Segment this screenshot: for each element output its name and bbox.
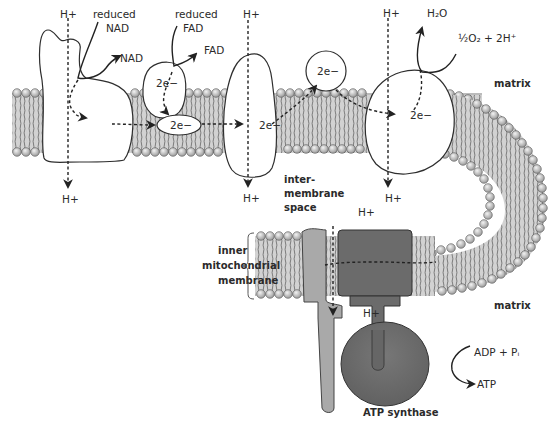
label-2e-carrier: 2e− bbox=[170, 119, 192, 131]
f1-head bbox=[341, 322, 429, 406]
label-atp: ATP bbox=[477, 378, 496, 390]
label-2e-fad: 2e− bbox=[156, 77, 178, 89]
label-intermembrane-1: inter- bbox=[284, 174, 315, 185]
label-matrix-bottom: matrix bbox=[494, 300, 531, 311]
label-reduced-nad-2: NAD bbox=[106, 22, 129, 34]
label-h-plus-2: H+ bbox=[243, 8, 260, 20]
label-inner-2: mitochondrial bbox=[202, 260, 280, 271]
complex-I bbox=[40, 30, 133, 162]
atp-arrow bbox=[452, 346, 474, 384]
label-h-plus-5: H+ bbox=[243, 192, 260, 204]
label-inner-1: inner bbox=[218, 245, 247, 256]
label-fad: FAD bbox=[204, 44, 224, 56]
label-2e-complex4: 2e− bbox=[410, 109, 432, 121]
label-h-plus-8: H+ bbox=[363, 307, 380, 319]
complex-IV bbox=[365, 70, 454, 174]
complex-II bbox=[143, 62, 186, 118]
label-h-plus-1: H+ bbox=[60, 8, 77, 20]
water-arrow bbox=[417, 28, 456, 72]
label-h-plus-4: H+ bbox=[62, 193, 79, 205]
label-matrix-top: matrix bbox=[494, 78, 531, 89]
complex-III bbox=[224, 54, 277, 177]
label-h-plus-6: H+ bbox=[385, 192, 402, 204]
label-reduced-nad-1: reduced bbox=[93, 8, 136, 20]
label-nad: NAD bbox=[120, 52, 143, 64]
label-reduced-fad-2: FAD bbox=[183, 22, 203, 34]
label-reduced-fad-1: reduced bbox=[175, 8, 218, 20]
etc-diagram: H+ reduced NAD NAD reduced FAD FAD H+ H+… bbox=[0, 0, 559, 422]
label-2e-complex3: 2e− bbox=[259, 119, 281, 131]
label-2e-cytc: 2e− bbox=[317, 65, 339, 77]
label-intermembrane-3: space bbox=[284, 202, 317, 213]
label-atp-synthase: ATP synthase bbox=[363, 407, 439, 418]
label-intermembrane-2: membrane bbox=[284, 188, 345, 199]
label-h-plus-3: H+ bbox=[383, 7, 400, 19]
label-h-plus-7: H+ bbox=[358, 206, 375, 218]
label-h2o: H₂O bbox=[427, 7, 447, 19]
label-adp-pi: ADP + Pᵢ bbox=[474, 346, 519, 358]
label-oxygen-equation: ½O₂ + 2H⁺ bbox=[458, 32, 516, 44]
